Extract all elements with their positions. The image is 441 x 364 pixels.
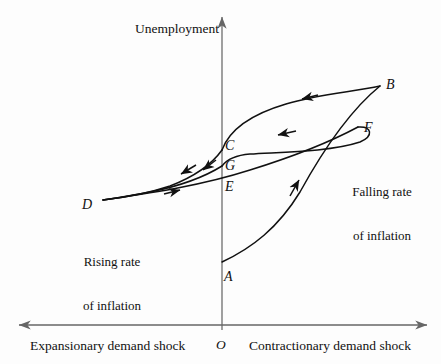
curve-b-to-c bbox=[222, 86, 380, 150]
curve-group bbox=[103, 86, 380, 262]
direction-arrow-group bbox=[164, 95, 318, 196]
arrow-a-to-b bbox=[290, 180, 299, 196]
arrow-g-to-d bbox=[203, 160, 216, 170]
arrow-f-to-g bbox=[278, 131, 296, 135]
curve-d-to-e-to-f bbox=[103, 127, 358, 200]
arrow-c-to-d bbox=[181, 165, 196, 174]
axis-group bbox=[19, 17, 427, 330]
curve-a-to-b bbox=[222, 86, 380, 262]
hysteresis-diagram-figure: Unemployment Expansionary demand shock O… bbox=[0, 0, 441, 364]
diagram-canvas bbox=[0, 0, 441, 364]
